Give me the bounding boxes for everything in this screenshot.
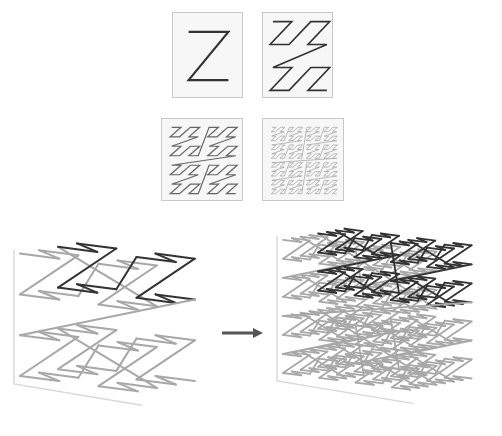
axis-lines	[14, 250, 142, 406]
arrow-right-icon	[222, 328, 263, 338]
z-order-3d-cubes	[0, 0, 502, 436]
z-order-3d-level-2	[277, 229, 472, 404]
figure	[0, 0, 502, 436]
z-order-3d-level-1	[14, 243, 195, 405]
